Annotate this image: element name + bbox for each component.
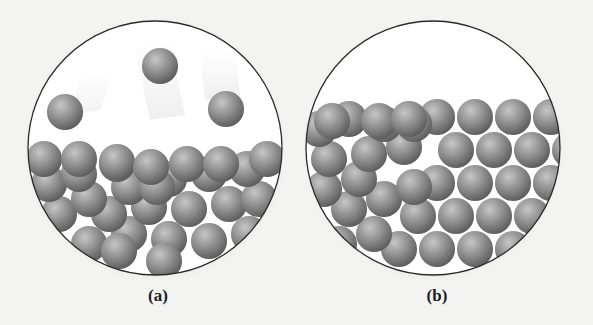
panel-a-liquid [19, 14, 291, 286]
diagram-canvas [0, 0, 593, 325]
panel-b-solid [297, 14, 588, 286]
panel-a-label: (a) [138, 286, 178, 306]
panel-b-label: (b) [417, 286, 457, 306]
